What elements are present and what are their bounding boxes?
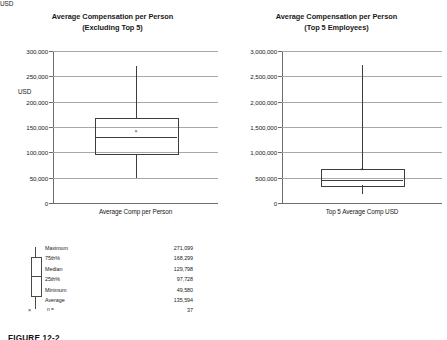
mean-legend-icon-left: ×: [28, 307, 31, 313]
gridline-0: [53, 203, 218, 204]
legend-value-minimum-left: 49,580: [177, 287, 193, 293]
chart-title-right: Average Compensation per Person (Top 5 E…: [230, 12, 443, 33]
legend-row-average-left: Average 135,594: [45, 297, 193, 307]
legend-label-25th-left: 25th%: [45, 276, 60, 282]
y-axis-unit-right: USD: [0, 0, 13, 7]
y-tick-100000: [49, 152, 53, 153]
legend-label-75th-left: 75th%: [45, 255, 60, 261]
legend-row-25th-left: 25th% 97,728: [45, 276, 193, 286]
figure-caption: FIGURE 12-2: [8, 334, 60, 340]
legend-value-75th-left: 168,299: [174, 255, 193, 261]
y-tick-150000: [49, 127, 53, 128]
legend-value-25th-left: 97,728: [177, 276, 193, 282]
legend-value-median-left: 129,798: [174, 266, 193, 272]
legend-label-average-left: Average: [45, 297, 65, 303]
boxplot-legend-icon-left: [30, 247, 41, 309]
legend-value-average-left: 135,594: [174, 297, 193, 303]
legend-row-minimum-left: Minimum 49,580: [45, 287, 193, 297]
legend-row-maximum-left: Maximum 271,099: [45, 245, 193, 255]
legend-label-minimum-left: Minimum: [45, 287, 67, 293]
y-tick-300000: [49, 51, 53, 52]
y-tick-label-300000: 300,000: [26, 48, 48, 55]
mean-marker-icon-left: ×: [134, 129, 137, 134]
chart-title-right-line2: (Top 5 Employees): [230, 23, 443, 34]
legend-row-n-left: n = 37: [45, 307, 193, 317]
legend-value-maximum-left: 271,099: [174, 245, 193, 251]
legend-label-n-left: n =: [47, 307, 54, 312]
legend-row-75th-left: 75th% 168,299: [45, 255, 193, 265]
legend-row-median-left: Median 129,798: [45, 266, 193, 276]
plot-area-left: 300,000 250,000 200,000 150,000 100,000 …: [53, 51, 218, 203]
whisker-upper-left: [136, 66, 137, 118]
chart-title-left: Average Compensation per Person (Excludi…: [6, 12, 219, 33]
y-tick-50000: [49, 178, 53, 179]
chart-title-left-line1: Average Compensation per Person: [52, 12, 173, 21]
gridline-300000: [53, 51, 218, 52]
x-axis-category-label-left: Average Comp per Person: [53, 208, 218, 215]
whisker-lower-left: [136, 154, 137, 178]
y-tick-0: [49, 203, 53, 204]
median-line-left: [95, 137, 177, 138]
y-tick-label-150000: 150,000: [26, 124, 48, 131]
legend-label-maximum-left: Maximum: [45, 245, 68, 251]
y-tick-200000: [49, 102, 53, 103]
legend-rows-left: Maximum 271,099 75th% 168,299 Median 129…: [45, 245, 193, 318]
y-tick-label-0: 0: [45, 200, 48, 207]
chart-panel-excluding-top-5: Average Compensation per Person (Excludi…: [0, 0, 223, 340]
y-tick-label-200000: 200,000: [26, 98, 48, 105]
figure-page: Average Compensation per Person (Excludi…: [0, 0, 447, 340]
chart-title-left-line2: (Excluding Top 5): [6, 23, 219, 34]
legend-label-median-left: Median: [45, 266, 62, 272]
y-axis-unit-left: USD: [18, 88, 31, 95]
y-tick-label-100000: 100,000: [26, 149, 48, 156]
y-tick-250000: [49, 76, 53, 77]
y-tick-label-50000: 50,000: [30, 174, 48, 181]
y-tick-label-250000: 250,000: [26, 73, 48, 80]
chart-title-right-line1: Average Compensation per Person: [276, 12, 397, 21]
chart-panel-top-5: Average Compensation per Person (Top 5 E…: [224, 0, 447, 340]
legend-value-n-left: 37: [187, 307, 193, 313]
